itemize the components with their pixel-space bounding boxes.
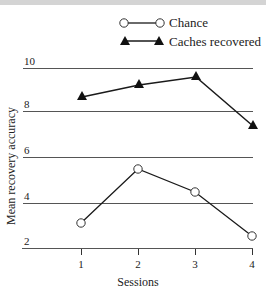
series-chance xyxy=(77,165,256,240)
legend-item-caches-recovered: Caches recovered xyxy=(120,34,262,49)
y-tick-label: 6 xyxy=(24,144,30,156)
x-tick-label: 4 xyxy=(249,258,255,270)
x-tick-label: 3 xyxy=(192,258,198,270)
circle-marker xyxy=(134,165,142,173)
y-axis-title: Mean recovery accuracy xyxy=(4,107,18,225)
legend: Chance Caches recovered xyxy=(120,15,262,49)
chance-line xyxy=(81,169,252,236)
y-tick-label: 8 xyxy=(24,98,30,110)
caches-recovered-line xyxy=(82,77,253,126)
legend-label: Caches recovered xyxy=(169,34,262,49)
triangle-marker xyxy=(134,79,144,88)
circle-marker xyxy=(248,232,256,240)
triangle-marker xyxy=(248,120,258,129)
y-tick-label: 10 xyxy=(24,55,36,67)
x-tick-labels: 1 2 3 4 xyxy=(78,258,255,270)
y-tick-label: 2 xyxy=(24,235,30,247)
x-tick-label: 2 xyxy=(135,258,141,270)
series-caches-recovered xyxy=(77,71,258,129)
triangle-marker xyxy=(191,71,201,80)
x-tick-label: 1 xyxy=(78,258,84,270)
legend-label: Chance xyxy=(169,15,208,30)
y-tick-labels: 10 8 6 4 2 xyxy=(24,55,36,247)
x-axis-title: Sessions xyxy=(117,275,159,289)
circle-marker-icon xyxy=(156,19,164,27)
line-chart: 10 8 6 4 2 1 2 3 4 Sessions Mean recover… xyxy=(0,0,266,293)
y-tick-label: 4 xyxy=(24,190,30,202)
legend-item-chance: Chance xyxy=(120,15,208,30)
circle-marker-icon xyxy=(120,19,128,27)
circle-marker xyxy=(77,219,85,227)
x-ticks xyxy=(82,249,253,255)
circle-marker xyxy=(191,188,199,196)
